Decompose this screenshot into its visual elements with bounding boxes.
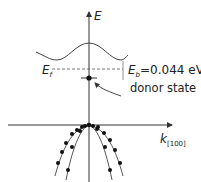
fermi-level-label: Ef xyxy=(42,64,52,79)
k-main: k xyxy=(160,132,167,146)
donor-state-label: donor state xyxy=(130,83,196,95)
fermi-main: E xyxy=(42,63,50,77)
conduction-band-curve xyxy=(36,43,128,60)
binding-value: =0.044 eV xyxy=(140,63,201,77)
fermi-sub: f xyxy=(50,71,52,79)
donor-arrow xyxy=(95,83,121,96)
k-axis-label: k[100] xyxy=(160,133,186,148)
k-sub: [100] xyxy=(167,140,186,148)
energy-axis-label: E xyxy=(94,10,102,22)
donor-state-dot xyxy=(86,75,91,80)
binding-energy-label: Eb=0.044 eV xyxy=(128,64,201,79)
binding-main: E xyxy=(128,63,136,77)
